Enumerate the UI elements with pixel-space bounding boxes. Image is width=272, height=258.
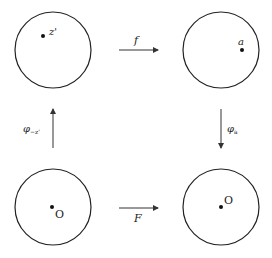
phi-symbol: φ xyxy=(23,123,30,134)
disk-top-left xyxy=(15,12,91,88)
label-a: a xyxy=(238,37,244,47)
label-f: f xyxy=(134,35,138,46)
point-a xyxy=(240,48,244,52)
phi-symbol: φ xyxy=(227,123,234,134)
point-origin-left xyxy=(50,205,54,209)
label-z-prime: z' xyxy=(49,27,57,37)
phi-subscript: −z' xyxy=(30,128,40,135)
point-origin-right xyxy=(219,205,223,209)
disk-top-right xyxy=(183,12,259,88)
label-origin-right: O xyxy=(224,195,233,206)
label-origin-left: O xyxy=(55,209,64,220)
label-phi-a: φa xyxy=(227,124,238,135)
label-F: F xyxy=(134,213,142,224)
label-phi-neg-z: φ−z' xyxy=(23,124,40,135)
phi-subscript: a xyxy=(234,128,238,135)
point-z-prime xyxy=(41,34,45,38)
